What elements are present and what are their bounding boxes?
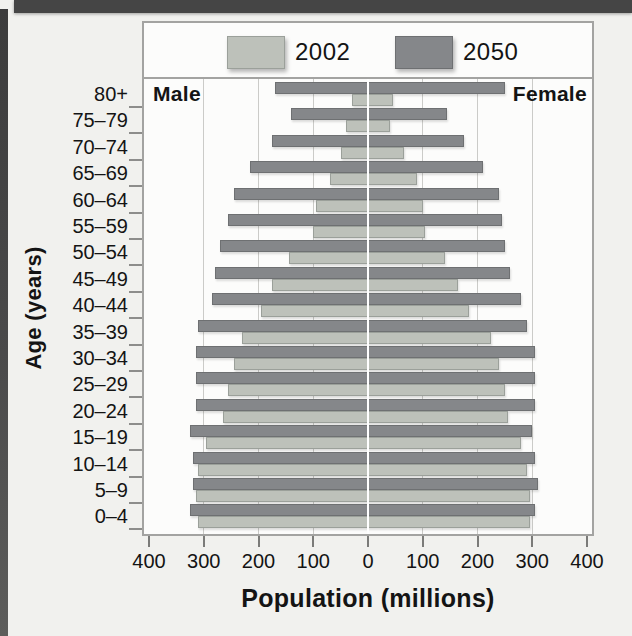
bar-female-2002 — [368, 464, 527, 476]
population-axis-tick — [477, 536, 479, 547]
bar-female-2002 — [368, 252, 445, 264]
bar-male-2002 — [261, 305, 368, 317]
bar-male-2050 — [193, 452, 368, 464]
legend-label-2050: 2050 — [463, 36, 518, 67]
bar-female-2050 — [368, 320, 527, 332]
legend-label-2002: 2002 — [295, 36, 350, 67]
bar-female-2002 — [368, 358, 499, 370]
population-axis-tick — [203, 536, 205, 547]
age-axis-tick — [129, 106, 142, 108]
age-axis-tick — [129, 132, 142, 134]
bar-male-2002 — [346, 120, 368, 132]
bar-female-2050 — [368, 293, 521, 305]
bar-male-2002 — [341, 147, 368, 159]
age-axis-tick — [129, 317, 142, 319]
population-axis-tick — [531, 536, 533, 547]
population-tick-label: 300 — [502, 550, 562, 573]
bar-female-2002 — [368, 332, 491, 344]
chart-legend: 2002 2050 — [144, 23, 592, 79]
bar-male-2002 — [206, 437, 368, 449]
age-tick-label: 20–24 — [72, 398, 128, 424]
age-tick-label: 35–39 — [72, 319, 128, 345]
population-tick-label: 200 — [229, 550, 289, 573]
bar-female-2002 — [368, 120, 390, 132]
age-axis-tick — [129, 291, 142, 293]
plot-area: Male Female — [144, 79, 592, 534]
bar-female-2002 — [368, 516, 530, 528]
bar-male-2002 — [330, 173, 368, 185]
bar-male-2050 — [272, 135, 368, 147]
bar-female-2050 — [368, 135, 464, 147]
bar-female-2002 — [368, 384, 505, 396]
female-side-label: Female — [513, 82, 587, 106]
age-axis-tick — [129, 396, 142, 398]
bar-male-2002 — [272, 279, 368, 291]
bar-male-2002 — [313, 226, 368, 238]
bar-male-2050 — [228, 214, 368, 226]
bar-female-2050 — [368, 478, 538, 490]
bar-female-2002 — [368, 305, 469, 317]
bar-female-2050 — [368, 188, 499, 200]
bar-male-2050 — [250, 161, 368, 173]
bar-male-2050 — [196, 372, 368, 384]
population-axis-tick — [258, 536, 260, 547]
bar-female-2002 — [368, 147, 404, 159]
age-tick-label: 60–64 — [72, 187, 128, 213]
age-tick-label: 50–54 — [72, 239, 128, 265]
bar-female-2050 — [368, 425, 532, 437]
bar-female-2050 — [368, 267, 510, 279]
bar-female-2002 — [368, 94, 393, 106]
population-tick-label: 400 — [119, 550, 179, 573]
bar-male-2050 — [190, 425, 368, 437]
age-tick-label: 25–29 — [72, 371, 128, 397]
bar-male-2002 — [228, 384, 368, 396]
bar-male-2050 — [196, 399, 368, 411]
y-axis-title: Age (years) — [21, 246, 47, 369]
bar-male-2050 — [190, 504, 368, 516]
age-axis-tick — [129, 476, 142, 478]
bar-female-2002 — [368, 226, 425, 238]
bar-male-2002 — [316, 200, 368, 212]
bar-female-2002 — [368, 490, 530, 502]
bar-male-2050 — [220, 240, 368, 252]
age-tick-label: 75–79 — [72, 107, 128, 133]
bar-male-2002 — [196, 490, 368, 502]
bar-male-2002 — [223, 411, 368, 423]
age-tick-label: 15–19 — [72, 424, 128, 450]
bar-male-2050 — [275, 82, 368, 94]
bar-female-2050 — [368, 214, 502, 226]
bar-female-2050 — [368, 240, 505, 252]
age-axis-tick — [129, 344, 142, 346]
population-tick-label: 400 — [557, 550, 617, 573]
age-axis-tick — [129, 449, 142, 451]
bar-female-2050 — [368, 399, 535, 411]
population-axis: 4003002001000100200300400 — [144, 536, 592, 582]
bar-male-2050 — [291, 108, 368, 120]
bar-female-2050 — [368, 372, 535, 384]
age-axis-tick — [129, 159, 142, 161]
bar-female-2002 — [368, 437, 521, 449]
age-axis-tick — [129, 212, 142, 214]
bar-female-2050 — [368, 452, 535, 464]
age-axis-tick — [129, 502, 142, 504]
age-axis-tick — [129, 264, 142, 266]
age-axis-tick — [129, 185, 142, 187]
bar-female-2002 — [368, 173, 417, 185]
bar-female-2050 — [368, 108, 447, 120]
bar-male-2050 — [198, 320, 368, 332]
age-tick-label: 55–59 — [72, 213, 128, 239]
age-tick-label: 40–44 — [72, 292, 128, 318]
bar-female-2002 — [368, 411, 508, 423]
age-axis-tick — [129, 423, 142, 425]
population-tick-label: 100 — [393, 550, 453, 573]
bar-female-2050 — [368, 161, 483, 173]
legend-swatch-2002 — [227, 36, 285, 69]
age-tick-label: 65–69 — [72, 160, 128, 186]
bar-male-2050 — [212, 293, 368, 305]
population-axis-tick — [422, 536, 424, 547]
age-tick-label: 5–9 — [95, 477, 128, 503]
bar-male-2050 — [234, 188, 368, 200]
bar-male-2002 — [198, 464, 368, 476]
population-tick-label: 100 — [283, 550, 343, 573]
bar-female-2050 — [368, 504, 535, 516]
